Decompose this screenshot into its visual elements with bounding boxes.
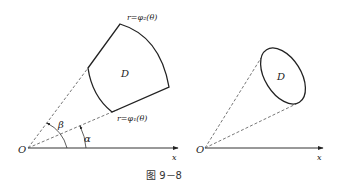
inner-curve-label: r=φ₁(θ) (117, 114, 147, 123)
left-ray-alpha (28, 112, 112, 148)
beta-label: β (57, 119, 64, 130)
right-panel: O x D (196, 40, 323, 162)
right-region-d-label: D (276, 71, 285, 82)
left-origin-label: O (18, 144, 26, 155)
polar-region-figure: O x D r=φ₂(θ) r=φ₁(θ) β α O x D 图 9－8 (0, 0, 337, 194)
left-axis-label: x (172, 153, 177, 162)
right-origin-label: O (196, 144, 204, 155)
region-d-label: D (120, 68, 129, 79)
outer-curve-label: r=φ₂(θ) (127, 13, 157, 22)
left-ray-beta (28, 68, 88, 148)
left-panel: O x D r=φ₂(θ) r=φ₁(θ) β α (18, 13, 178, 162)
alpha-label: α (84, 133, 91, 144)
figure-caption: 图 9－8 (146, 170, 182, 181)
right-axis-label: x (317, 153, 322, 162)
